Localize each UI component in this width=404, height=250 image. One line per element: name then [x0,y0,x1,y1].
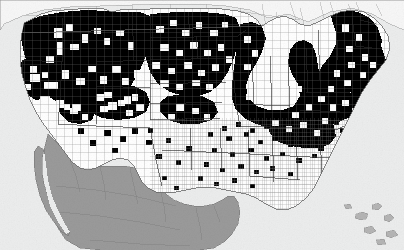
us-county-choropleth-map [0,0,404,250]
map-canvas [0,0,404,250]
